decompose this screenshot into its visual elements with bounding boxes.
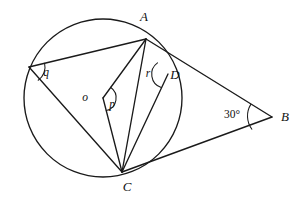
point-label-d: D <box>169 67 180 82</box>
point-label-c: C <box>123 179 132 194</box>
angle-label-p: p <box>108 98 115 111</box>
center-label-o: o <box>82 91 88 103</box>
angle-label-b-30deg: 30° <box>224 108 241 120</box>
point-label-b: B <box>281 109 289 124</box>
angle-label-q: q <box>43 66 49 79</box>
point-label-a: A <box>139 9 148 24</box>
angle-arc-r <box>152 63 161 88</box>
segment-a-to-b <box>146 39 272 117</box>
angle-label-r: r <box>146 67 151 79</box>
segment-a-to-c <box>122 39 146 172</box>
geometry-canvas: A B C D o q p r 30° <box>0 0 303 201</box>
geometry-figure: A B C D o q p r 30° <box>0 0 303 201</box>
